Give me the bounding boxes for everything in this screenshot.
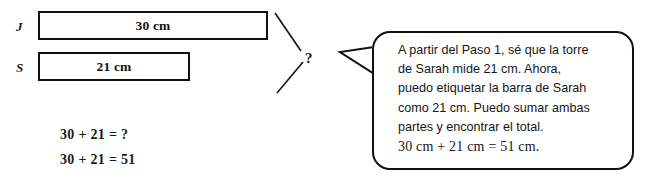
speech-bubble-tail bbox=[340, 47, 376, 75]
equation-solved: 30 + 21 = 51 bbox=[60, 152, 136, 168]
speech-bubble-text: A partir del Paso 1, sé que la torre de … bbox=[398, 41, 622, 156]
equation-unknown: 30 + 21 = ? bbox=[60, 127, 128, 143]
worksheet-canvas: J 30 cm S 21 cm ? 30 + 21 = ? 30 + 21 = … bbox=[0, 0, 647, 184]
brace-line-upper bbox=[275, 13, 301, 51]
brace-line-lower bbox=[277, 62, 303, 93]
bar-sarah: 21 cm bbox=[38, 52, 190, 81]
bubble-line-2: de Sarah mide 21 cm. Ahora, bbox=[398, 60, 622, 79]
bubble-line-4: como 21 cm. Puedo sumar ambas bbox=[398, 99, 622, 118]
bar-sarah-value: 21 cm bbox=[96, 59, 131, 75]
bubble-equation-line: 30 cm + 21 cm = 51 cm. bbox=[398, 137, 622, 156]
bubble-line-3: puedo etiquetar la barra de Sarah bbox=[398, 79, 622, 98]
bar-label-j: J bbox=[16, 20, 23, 33]
bubble-line-1: A partir del Paso 1, sé que la torre bbox=[398, 41, 622, 60]
bar-jason: 30 cm bbox=[38, 11, 268, 40]
bar-jason-value: 30 cm bbox=[135, 18, 170, 34]
bar-label-s: S bbox=[16, 61, 23, 74]
total-question-mark: ? bbox=[305, 51, 313, 66]
bubble-line-5: partes y encontrar el total. bbox=[398, 118, 622, 137]
